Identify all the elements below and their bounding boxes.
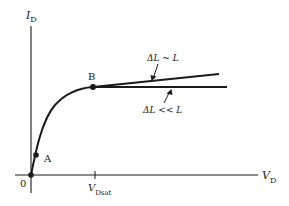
point-a: [33, 152, 39, 158]
origin-label: 0: [20, 178, 26, 189]
vdsat-label: VDsat: [88, 182, 112, 197]
annotation-lower: ΔL << L: [142, 105, 182, 115]
point-origin: [28, 172, 34, 178]
point-b: [90, 84, 96, 90]
y-axis-label: ID: [25, 9, 37, 24]
point-a-label: A: [43, 153, 52, 164]
annotation-upper: ΔL ~ L: [146, 53, 179, 63]
arrow-lower-head: [167, 89, 173, 95]
point-b-label: B: [88, 71, 95, 82]
id-vd-diagram: ID VD 0 VDsat A B ΔL ~ L ΔL << L: [0, 0, 289, 206]
saturation-line-rising: [93, 74, 219, 87]
x-axis-label: VD: [262, 169, 276, 185]
id-curve: [31, 87, 93, 175]
